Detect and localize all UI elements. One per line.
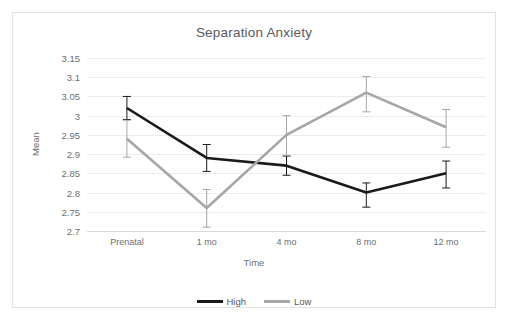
y-tick-label: 2.85 bbox=[62, 168, 81, 179]
error-bar bbox=[123, 120, 131, 157]
x-axis-label: Time bbox=[13, 257, 495, 268]
chart-legend: HighLow bbox=[13, 296, 495, 307]
error-bar bbox=[362, 183, 370, 207]
gridline bbox=[87, 231, 486, 232]
legend-label: High bbox=[227, 296, 247, 307]
y-tick-label: 3.1 bbox=[67, 72, 80, 83]
x-tick-label: 1 mo bbox=[197, 237, 217, 247]
x-tick-label: 12 mo bbox=[434, 237, 459, 247]
legend-swatch bbox=[197, 300, 223, 303]
series-low bbox=[123, 76, 450, 227]
x-tick-label: Prenatal bbox=[110, 237, 144, 247]
x-tick-label: 4 mo bbox=[276, 237, 296, 247]
y-axis-label: Mean bbox=[30, 132, 41, 156]
y-tick-label: 2.7 bbox=[67, 226, 80, 237]
y-tick-label: 2.95 bbox=[62, 129, 81, 140]
y-tick-label: 3.05 bbox=[62, 91, 81, 102]
chart-container: Separation Anxiety Mean 3.153.13.0532.95… bbox=[12, 12, 496, 308]
legend-entry-high[interactable]: High bbox=[197, 296, 247, 307]
plot-area: 3.153.13.0532.952.92.852.82.752.7 Prenat… bbox=[87, 58, 486, 231]
x-tick-label: 8 mo bbox=[356, 237, 376, 247]
y-tick-label: 3.15 bbox=[62, 53, 81, 64]
error-bar bbox=[442, 110, 450, 148]
error-bar bbox=[123, 96, 131, 119]
legend-entry-low[interactable]: Low bbox=[264, 296, 311, 307]
y-tick-label: 2.8 bbox=[67, 187, 80, 198]
chart-title: Separation Anxiety bbox=[13, 25, 495, 40]
legend-swatch bbox=[264, 300, 290, 303]
y-tick-label: 2.75 bbox=[62, 206, 81, 217]
y-tick-label: 3 bbox=[75, 110, 80, 121]
series-lines bbox=[87, 58, 486, 231]
y-tick-label: 2.9 bbox=[67, 149, 80, 160]
legend-label: Low bbox=[294, 296, 311, 307]
